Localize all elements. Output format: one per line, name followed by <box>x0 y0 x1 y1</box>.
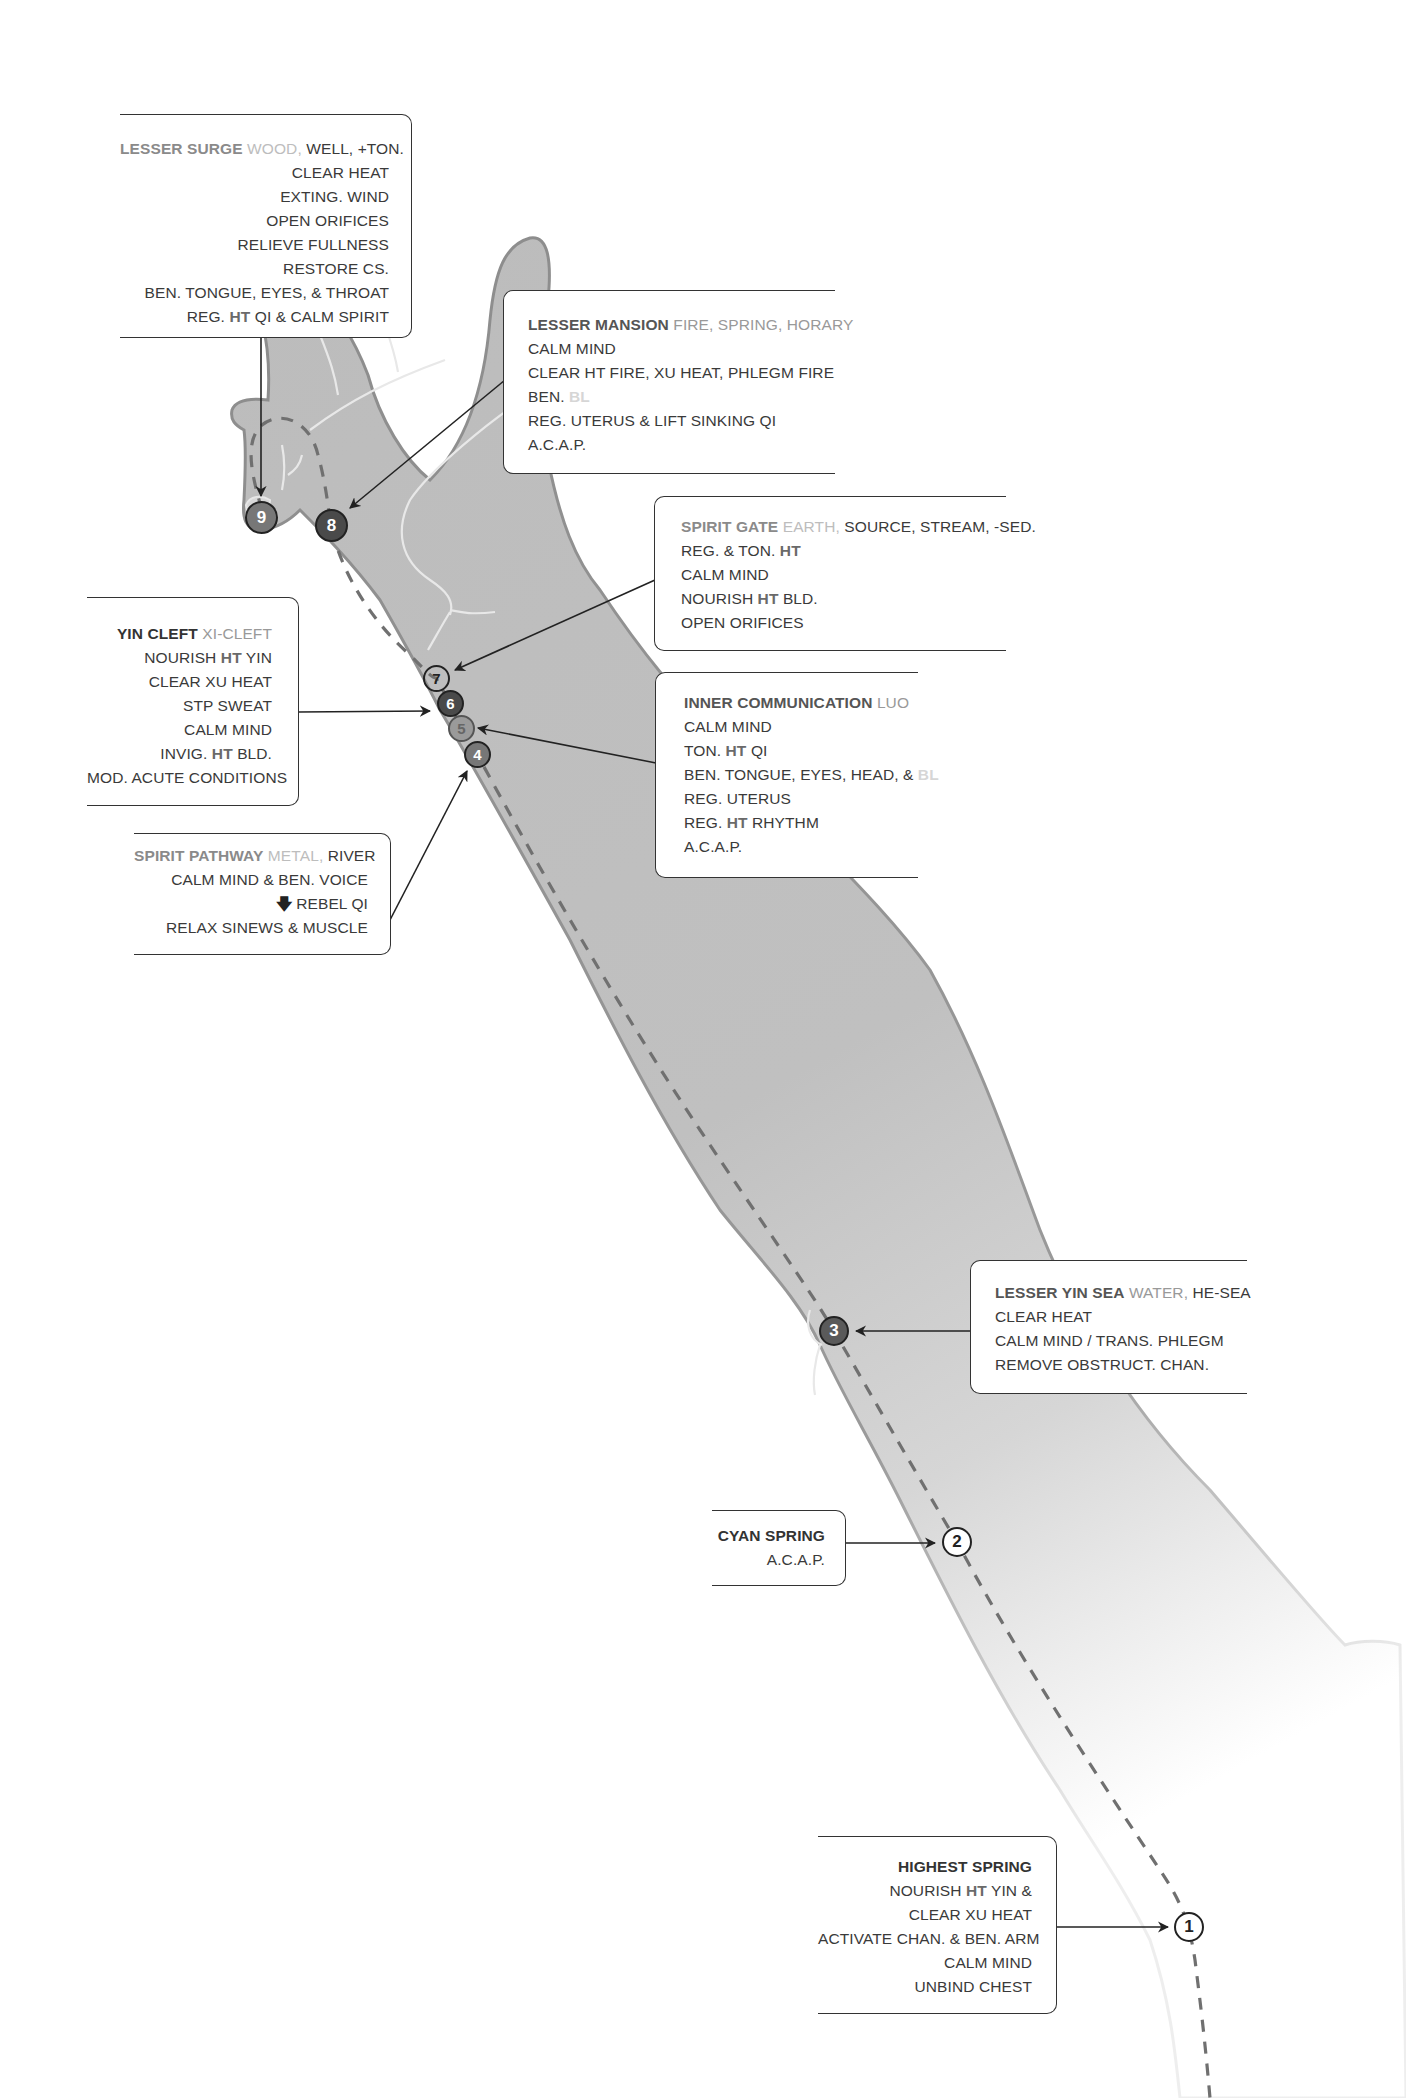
callout-lesser-surge: LESSER SURGE WOOD, WELL, +TON. CLEAR HEA… <box>120 114 412 338</box>
callout-yin-cleft: YIN CLEFT XI-CLEFT NOURISH HT YIN CLEAR … <box>87 597 299 806</box>
callout-highest-spring: HIGHEST SPRING NOURISH HT YIN & CLEAR XU… <box>818 1836 1057 2014</box>
point-marker-7[interactable]: 7 <box>423 665 450 692</box>
callout-heading: LESSER SURGE WOOD, WELL, +TON. <box>120 137 389 161</box>
point-marker-3[interactable]: 3 <box>819 1316 849 1346</box>
point-marker-8[interactable]: 8 <box>315 509 348 542</box>
callout-cyan-spring: CYAN SPRING A.C.A.P. <box>712 1510 846 1586</box>
callout-lesser-yin-sea: LESSER YIN SEA WATER, HE-SEA CLEAR HEAT … <box>970 1260 1247 1394</box>
point-marker-6[interactable]: 6 <box>437 690 464 717</box>
down-arrow-icon: 🡇 <box>276 895 292 912</box>
callout-spirit-gate: SPIRIT GATE EARTH, SOURCE, STREAM, -SED.… <box>654 496 1006 651</box>
point-marker-4[interactable]: 4 <box>464 741 491 768</box>
point-marker-5[interactable]: 5 <box>448 715 475 742</box>
callout-spirit-pathway: SPIRIT PATHWAY METAL, RIVER CALM MIND & … <box>134 833 391 955</box>
point-marker-1[interactable]: 1 <box>1174 1912 1204 1942</box>
heart-channel-path <box>251 418 1210 2098</box>
point-marker-9[interactable]: 9 <box>245 501 278 534</box>
callout-lesser-mansion: LESSER MANSION FIRE, SPRING, HORARY CALM… <box>503 290 835 474</box>
point-marker-2[interactable]: 2 <box>942 1527 972 1557</box>
callout-inner-communication: INNER COMMUNICATION LUO CALM MIND TON. H… <box>655 672 918 878</box>
